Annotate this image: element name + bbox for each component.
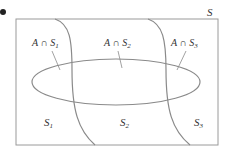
svg-text:S3: S3 — [194, 116, 204, 130]
svg-text:S2: S2 — [120, 116, 130, 130]
partition-label-3: S3 — [194, 116, 204, 130]
bullet-marker — [0, 9, 6, 15]
svg-text:A ∩ S2: A ∩ S2 — [103, 37, 131, 50]
partition-label-2: S2 — [120, 116, 130, 130]
event-a-ellipse — [32, 59, 200, 105]
intersection-label-2: A ∩ S2 — [103, 37, 131, 50]
partition-diagram: S A ∩ S1 A ∩ S2 A ∩ S3 S1 S2 S3 — [0, 0, 228, 154]
svg-text:A ∩ S1: A ∩ S1 — [31, 37, 59, 50]
universe-label: S — [207, 6, 213, 18]
partition-label-1: S1 — [44, 116, 53, 130]
svg-text:S1: S1 — [44, 116, 53, 130]
partition-boundary-1 — [55, 19, 95, 145]
intersection-label-3: A ∩ S3 — [170, 37, 198, 50]
svg-text:A ∩ S3: A ∩ S3 — [170, 37, 198, 50]
intersection-label-1: A ∩ S1 — [31, 37, 59, 50]
